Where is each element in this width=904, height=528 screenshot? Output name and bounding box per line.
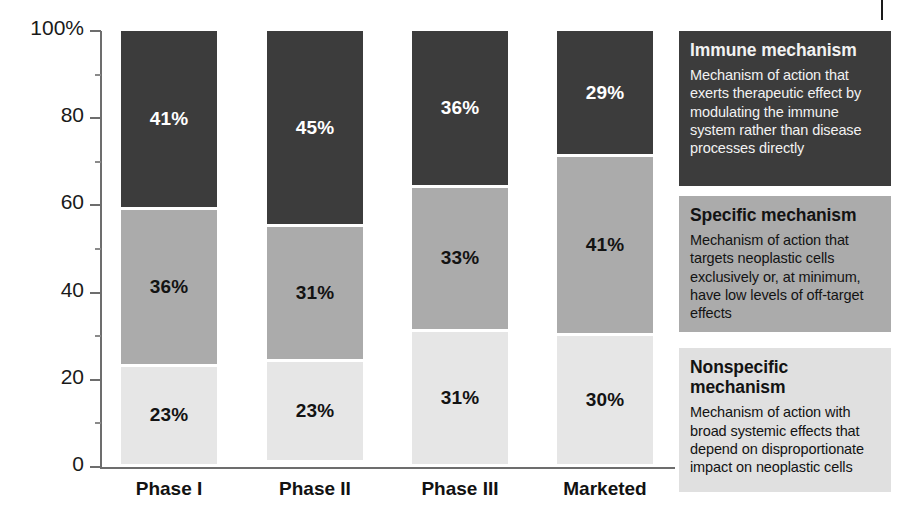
- bar-segment-specific: 41%: [557, 157, 653, 333]
- y-tick-0: [90, 466, 101, 468]
- legend-item-description: Mechanism of action with broad systemic …: [690, 403, 880, 476]
- bar-segment-immune: 45%: [267, 31, 363, 224]
- bar-segment-immune: 29%: [557, 31, 653, 154]
- segment-value-label: 45%: [296, 117, 335, 139]
- x-axis-label-phase-iii: Phase III: [385, 478, 535, 500]
- segment-value-label: 41%: [150, 108, 189, 130]
- legend-item-title: Immune mechanism: [690, 40, 880, 60]
- y-minor-tick-30: [95, 335, 101, 337]
- bar-segment-immune: 41%: [121, 31, 217, 207]
- y-tick-20: [90, 379, 101, 381]
- y-tick-60: [90, 204, 101, 206]
- segment-value-label: 29%: [586, 82, 625, 104]
- bar-segment-nonspec: 30%: [557, 336, 653, 464]
- segment-value-label: 36%: [150, 276, 189, 298]
- chart-figure: 020406080100% 41%36%23%45%31%23%36%33%31…: [0, 0, 904, 528]
- y-axis-label: 0: [0, 452, 84, 476]
- legend-item-description: Mechanism of action that targets neoplas…: [690, 231, 880, 322]
- bar-segment-specific: 33%: [412, 188, 508, 329]
- y-minor-tick-70: [95, 161, 101, 163]
- y-minor-tick-90: [95, 74, 101, 76]
- bar-segment-nonspec: 31%: [412, 332, 508, 464]
- segment-value-label: 31%: [441, 387, 480, 409]
- y-tick-80: [90, 117, 101, 119]
- y-axis-label: 40: [0, 278, 84, 302]
- bar-segment-specific: 31%: [267, 227, 363, 359]
- segment-value-label: 33%: [441, 247, 480, 269]
- bar-phase-i: 41%36%23%: [121, 31, 217, 467]
- segment-value-label: 41%: [586, 234, 625, 256]
- legend-item-title: Nonspecific mechanism: [690, 357, 880, 397]
- bar-segment-nonspec: 23%: [267, 362, 363, 459]
- bar-phase-ii: 45%31%23%: [267, 31, 363, 467]
- segment-value-label: 31%: [296, 282, 335, 304]
- x-axis-line: [100, 467, 675, 469]
- segment-value-label: 30%: [586, 389, 625, 411]
- legend-item-immune[interactable]: Immune mechanismMechanism of action that…: [679, 31, 891, 186]
- crop-mark: [881, 0, 883, 20]
- segment-value-label: 23%: [296, 400, 335, 422]
- y-axis-label: 80: [0, 103, 84, 127]
- segment-value-label: 36%: [441, 97, 480, 119]
- y-axis-label: 20: [0, 365, 84, 389]
- bar-segment-specific: 36%: [121, 210, 217, 364]
- y-axis-label: 100%: [0, 16, 84, 40]
- x-axis-label-phase-i: Phase I: [94, 478, 244, 500]
- legend-item-specific[interactable]: Specific mechanismMechanism of action th…: [679, 196, 891, 332]
- y-axis-label: 60: [0, 190, 84, 214]
- bar-segment-nonspec: 23%: [121, 367, 217, 464]
- bar-segment-immune: 36%: [412, 31, 508, 185]
- y-minor-tick-10: [95, 422, 101, 424]
- segment-value-label: 23%: [150, 404, 189, 426]
- x-axis-label-marketed: Marketed: [530, 478, 680, 500]
- legend-item-title: Specific mechanism: [690, 205, 880, 225]
- y-tick-40: [90, 292, 101, 294]
- bar-marketed: 29%41%30%: [557, 31, 653, 467]
- bar-phase-iii: 36%33%31%: [412, 31, 508, 467]
- x-axis-label-phase-ii: Phase II: [240, 478, 390, 500]
- legend-item-description: Mechanism of action that exerts therapeu…: [690, 66, 880, 157]
- y-tick-100: [90, 30, 101, 32]
- legend-item-nonspec[interactable]: Nonspecific mechanismMechanism of action…: [679, 348, 891, 492]
- y-minor-tick-50: [95, 248, 101, 250]
